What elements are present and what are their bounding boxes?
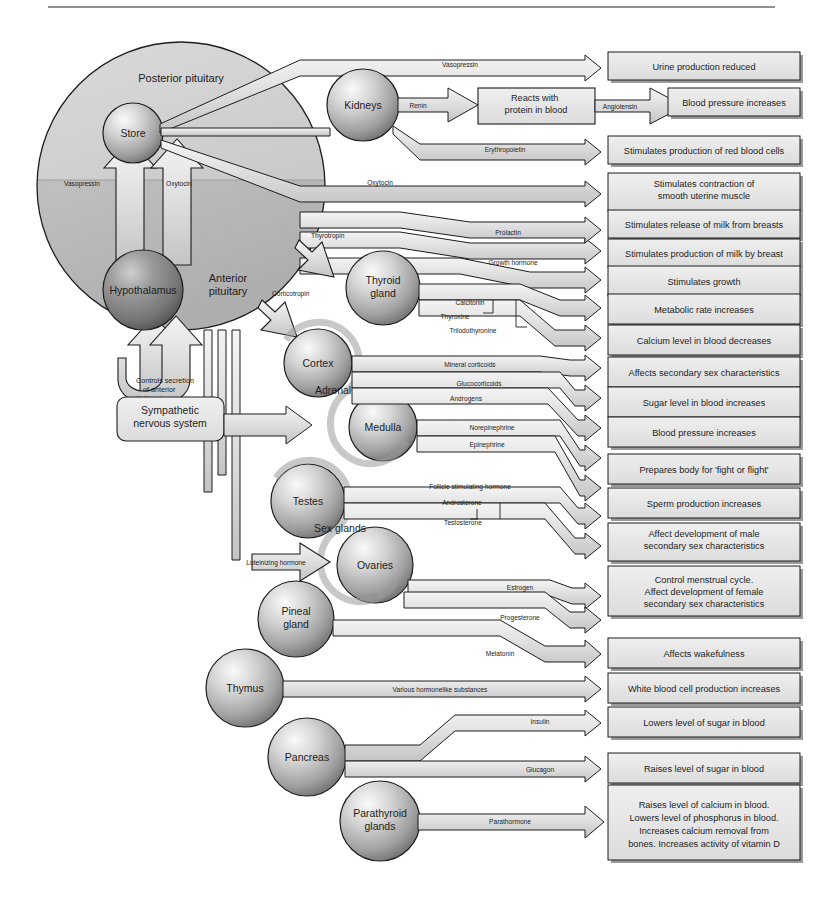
- hormone-label-androsterone: Androsterone: [442, 499, 482, 506]
- effect-text-e18: White blood cell production increases: [628, 684, 781, 694]
- hormone-label-thyroxine: Thyroxine: [441, 313, 470, 321]
- hormone-label-estrogen: Estrogen: [507, 584, 534, 592]
- effect-text-e11: Sugar level in blood increases: [643, 398, 766, 408]
- hormone-label-vasopressin-pituitary: Vasopressin: [64, 180, 100, 188]
- effect-text-e7: Stimulates growth: [667, 277, 740, 287]
- pineal-pipe: [333, 620, 601, 668]
- effect-text-e20: Raises level of sugar in blood: [644, 764, 764, 774]
- hormone-label-insulin: Insulin: [530, 718, 549, 725]
- effect-boxes: [608, 52, 803, 863]
- endocrine-diagram-page: Posterior pituitary Anterior pituitary A…: [0, 0, 821, 916]
- gland-label-cortex: Cortex: [303, 357, 335, 369]
- hormone-label-angiotensin: Angiotensin: [603, 103, 638, 111]
- hormone-label-norepinephrine: Norepinephrine: [469, 424, 514, 432]
- hormone-label-calcitonin: Calcitonin: [456, 299, 485, 306]
- gland-label-pineal: Pinealgland: [281, 605, 310, 630]
- hormone-label-erythropoietin: Erythropoietin: [485, 146, 526, 154]
- hormone-label-corticotropin: Corticotropin: [272, 290, 310, 298]
- effect-text-e5: Stimulates release of milk from breasts: [625, 220, 784, 230]
- gland-label-medulla: Medulla: [365, 421, 402, 433]
- gland-label-testes: Testes: [293, 495, 323, 507]
- hormone-label-lh: Luteinizing hormone: [246, 559, 306, 567]
- effect-text-e9: Calcium level in blood decreases: [637, 336, 772, 346]
- effect-text-e2: Blood pressure increases: [682, 98, 786, 108]
- hormone-label-androgens: Androgens: [450, 395, 483, 403]
- effect-text-e19: Lowers level of sugar in blood: [643, 718, 765, 728]
- hormone-label-progesterone: Progesterone: [500, 614, 540, 622]
- hormone-label-growth-hormone: Growth hormone: [488, 259, 537, 266]
- effect-text-e14: Sperm production increases: [647, 499, 762, 509]
- gland-label-kidneys: Kidneys: [344, 99, 381, 111]
- effect-text-e16: Control menstrual cycle.Affect developme…: [644, 575, 765, 609]
- effect-text-e6: Stimulates production of milk by breast: [625, 249, 783, 259]
- hormone-label-glucocorticoids: Glucocorticoids: [456, 380, 502, 387]
- hormone-label-glucagon: Glucagon: [526, 766, 555, 774]
- effect-text-e3: Stimulates production of red blood cells: [624, 146, 785, 156]
- hormone-label-fsh: Follicle stimulating hormone: [429, 483, 511, 491]
- hormone-label-oxytocin: Oxytocin: [367, 179, 393, 187]
- effect-text-e8: Metabolic rate increases: [654, 305, 754, 315]
- effect-box: [608, 785, 803, 863]
- hormone-label-thyrotropin: Thyrotropin: [311, 232, 345, 240]
- gland-label-thymus: Thymus: [226, 682, 263, 694]
- hypothalamus-label: Hypothalamus: [109, 284, 176, 296]
- hormone-label-prolactin: Prolactin: [495, 229, 521, 236]
- store-label: Store: [120, 127, 145, 139]
- pancreas-pipes: [345, 710, 601, 782]
- gland-label-thyroid: Thyroidgland: [365, 274, 400, 299]
- hormone-label-vasopressin: Vasopressin: [442, 61, 478, 69]
- gland-label-ovaries: Ovaries: [357, 559, 393, 571]
- hormone-label-various: Various hormonelike substances: [393, 686, 489, 693]
- sympathetic-label: Sympatheticnervous system: [133, 404, 207, 429]
- hormone-label-testosterone: Testosterone: [444, 519, 482, 526]
- sex-glands-label: Sex glands: [314, 522, 366, 534]
- hormone-label-mineral-corticoids: Mineral corticoids: [444, 361, 496, 368]
- hormone-label-oxytocin-pituitary: Oxytocin: [166, 180, 192, 188]
- effect-text-e17: Affects wakefulness: [663, 649, 744, 659]
- diagram-canvas: Posterior pituitary Anterior pituitary A…: [0, 0, 821, 916]
- gland-label-pancreas: Pancreas: [285, 751, 329, 763]
- hormone-label-triiodothyronine: Triiodothyronine: [449, 327, 496, 335]
- posterior-pituitary-label: Posterior pituitary: [138, 72, 224, 84]
- effect-text-e13: Prepares body for 'fight or flight': [639, 465, 768, 475]
- hormone-label-parathormone: Parathormone: [489, 818, 531, 825]
- hormone-label-epinephrine: Epinephrine: [469, 441, 505, 449]
- effect-text-e12: Blood pressure increases: [652, 428, 756, 438]
- hormone-label-melatonin: Melatonin: [486, 650, 515, 657]
- effect-text-e10: Affects secondary sex characteristics: [629, 368, 780, 378]
- anterior-pituitary-label: Anteriorpituitary: [209, 272, 248, 297]
- effect-text-e1: Urine production reduced: [652, 62, 755, 72]
- gonadotropin-pipes: [204, 330, 240, 560]
- hormone-label-renin: Renin: [409, 102, 427, 109]
